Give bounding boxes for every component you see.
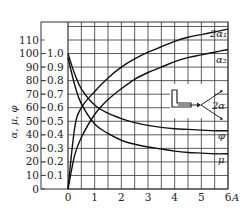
x-axis-label: A (231, 192, 239, 203)
x-tick-label: 2 (118, 191, 125, 203)
y-tick-label-right: 0.6 (47, 101, 64, 113)
x-tick-label: 1 (91, 191, 98, 203)
y-tick-label-right: 0.9 (47, 61, 64, 73)
y-tick-label-right: 0.4 (47, 128, 64, 140)
y-tick-label-right: 0.5 (47, 115, 64, 127)
chart: 01020304050607080901001100.10.20.30.40.5… (0, 0, 252, 214)
label-spray-angle: 2α (211, 100, 225, 111)
label-mu: μ (218, 154, 225, 165)
y-tick-label-right: 0.3 (47, 142, 64, 154)
x-tick-label: 5 (198, 191, 205, 203)
label-phi: φ (218, 130, 225, 141)
y-axis-label: α, μ, φ (8, 106, 19, 139)
x-tick-label: 4 (171, 191, 178, 203)
y-tick-label-right: 1.0 (47, 47, 64, 59)
y-tick-label-left: 50 (26, 115, 39, 127)
y-tick-label-left: 90 (26, 61, 39, 73)
label-2alpha1: 2α₁ (209, 28, 227, 39)
label-alpha2: α₂ (216, 54, 227, 65)
x-tick-label: 0 (65, 191, 72, 203)
y-tick-label-left: 110 (19, 34, 39, 46)
y-tick-label-left: 70 (26, 88, 39, 100)
y-tick-label-left: 80 (26, 74, 39, 86)
y-tick-label-left: 10 (26, 169, 39, 181)
y-tick-label-left: 30 (26, 142, 39, 154)
y-tick-label-left: 100 (19, 47, 39, 59)
y-tick-label-right: 0.7 (47, 88, 64, 100)
y-tick-label-left: 60 (26, 101, 39, 113)
y-tick-label-right: 0.8 (47, 74, 64, 86)
y-tick-label-left: 20 (26, 155, 39, 167)
y-tick-label-left: 0 (32, 183, 39, 195)
y-tick-label-right: 0.2 (47, 155, 64, 167)
x-tick-label: 3 (145, 191, 152, 203)
y-tick-label-left: 40 (26, 128, 39, 140)
y-tick-label-right: 0.1 (47, 169, 64, 181)
x-tick-label: 6 (225, 191, 232, 203)
